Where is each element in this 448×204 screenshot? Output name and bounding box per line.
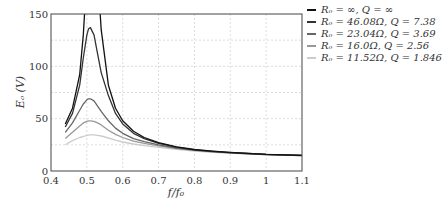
- legend-label: Rₒ = 46.08Ω, Q = 7.38: [321, 16, 436, 28]
- legend-label: Rₒ = 16.0Ω, Q = 2.56: [321, 40, 429, 52]
- x-tick-label: 0.9: [222, 175, 238, 186]
- legend-item: Rₒ = 11.52Ω, Q = 1.846: [307, 52, 442, 64]
- x-tick-label: 0.7: [151, 175, 167, 186]
- legend-label: Rₒ = 23.04Ω, Q = 3.69: [321, 28, 436, 40]
- y-tick-label: 50: [35, 113, 48, 124]
- x-tick-label: 1: [263, 175, 269, 186]
- x-tick-label: 0.6: [115, 175, 131, 186]
- y-tick-label: 0: [42, 166, 48, 177]
- y-tick-label: 100: [29, 61, 48, 72]
- y-tick-label: 150: [29, 9, 48, 20]
- y-axis-label: Eₒ (V): [14, 76, 27, 109]
- legend-item: Rₒ = 23.04Ω, Q = 3.69: [307, 28, 442, 40]
- x-tick-label: 0.4: [43, 175, 59, 186]
- legend-label: Rₒ = ∞, Q = ∞: [321, 4, 393, 16]
- legend-swatch: [307, 45, 316, 47]
- y-axis-ticks: 050100150: [29, 9, 48, 177]
- legend: Rₒ = ∞, Q = ∞Rₒ = 46.08Ω, Q = 7.38Rₒ = 2…: [307, 4, 442, 64]
- legend-label: Rₒ = 11.52Ω, Q = 1.846: [321, 52, 442, 64]
- legend-swatch: [307, 33, 316, 35]
- x-axis-ticks: 0.40.50.60.70.80.911.1: [43, 175, 310, 186]
- x-tick-label: 0.5: [79, 175, 95, 186]
- x-axis-label: f/f₀: [167, 186, 185, 199]
- x-tick-label: 0.8: [186, 175, 202, 186]
- legend-swatch: [307, 57, 316, 59]
- legend-item: Rₒ = 16.0Ω, Q = 2.56: [307, 40, 442, 52]
- x-tick-label: 1.1: [294, 175, 310, 186]
- legend-item: Rₒ = ∞, Q = ∞: [307, 4, 442, 16]
- legend-swatch: [307, 21, 316, 23]
- legend-swatch: [307, 9, 316, 11]
- legend-item: Rₒ = 46.08Ω, Q = 7.38: [307, 16, 442, 28]
